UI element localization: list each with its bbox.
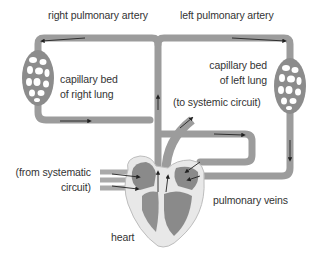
- label-left-pulmonary-artery: left pulmonary artery: [180, 9, 274, 22]
- label-right-pulmonary-artery: right pulmonary artery: [48, 9, 148, 22]
- label-to-systemic-circuit: (to systemic circuit): [173, 96, 261, 109]
- label-from-systematic-1: (from systematic: [16, 166, 91, 179]
- label-capillary-right-1: capillary bed: [60, 73, 118, 86]
- pulmonary-circulation-diagram: right pulmonary artery left pulmonary ar…: [0, 0, 319, 262]
- heart-icon: [125, 156, 204, 247]
- label-heart: heart: [111, 231, 134, 244]
- label-from-systematic-2: circuit): [61, 181, 91, 194]
- capillary-bed-left-lung-icon: [274, 58, 306, 114]
- label-capillary-left-1: capillary bed: [209, 59, 267, 72]
- capillary-bed-right-lung-icon: [22, 50, 54, 106]
- diagram-canvas: [0, 0, 319, 262]
- label-capillary-left-2: of left lung: [220, 74, 267, 87]
- label-capillary-right-2: of right lung: [60, 88, 114, 101]
- label-pulmonary-veins: pulmonary veins: [213, 194, 288, 207]
